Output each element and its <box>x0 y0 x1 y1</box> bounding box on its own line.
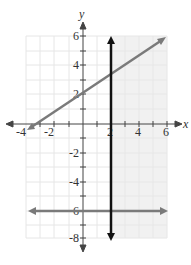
svg-text:-2: -2 <box>44 125 54 139</box>
x-axis-label: x <box>182 117 189 131</box>
y-axis-label: y <box>78 7 85 21</box>
svg-text:4: 4 <box>73 58 79 72</box>
svg-text:6: 6 <box>163 125 169 139</box>
svg-text:4: 4 <box>135 125 141 139</box>
coordinate-graph: y x -4 -2 2 4 6 6 4 2 -2 -4 -6 -8 <box>0 0 191 265</box>
svg-text:-4: -4 <box>16 125 26 139</box>
svg-text:-4: -4 <box>69 175 79 189</box>
y-axis <box>80 22 86 252</box>
svg-text:-8: -8 <box>69 231 79 245</box>
svg-text:-2: -2 <box>69 146 79 160</box>
y-tick-labels: 6 4 2 -2 -4 -6 -8 <box>69 29 79 245</box>
svg-text:6: 6 <box>73 29 79 43</box>
